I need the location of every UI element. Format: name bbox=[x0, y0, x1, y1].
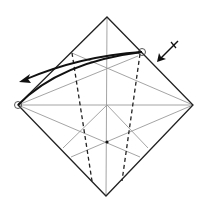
valley-fold-left bbox=[72, 53, 92, 181]
crease-left-to-upper-right bbox=[18, 56, 138, 105]
origami-diagram bbox=[0, 0, 205, 215]
push-arrow-shaft bbox=[160, 41, 178, 59]
crease-center-to-lower-left bbox=[63, 105, 107, 148]
crease-upper-left-to-right bbox=[72, 53, 193, 105]
crease-lines bbox=[18, 17, 193, 196]
crease-left-to-lower-right bbox=[18, 105, 140, 157]
vertical-diagonal-crease bbox=[106, 17, 107, 196]
valley-fold-right bbox=[122, 54, 140, 181]
intersection-dot bbox=[105, 140, 108, 143]
push-arrow bbox=[157, 41, 178, 62]
